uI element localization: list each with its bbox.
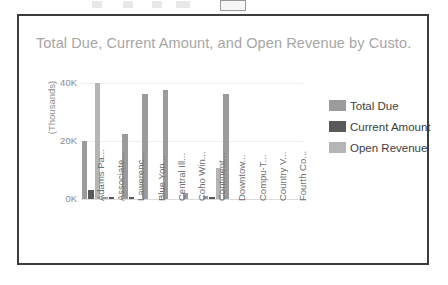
chart-frame[interactable]: Total Due, Current Amount, and Open Reve… bbox=[17, 14, 429, 265]
chart-title: Total Due, Current Amount, and Open Reve… bbox=[36, 35, 411, 51]
y-axis-tick-labels: 40K20K0K bbox=[47, 68, 77, 199]
toolbar-icon-2[interactable] bbox=[123, 1, 133, 8]
gridline bbox=[81, 141, 303, 142]
chart-legend: Total DueCurrent AmountOpen Revenue bbox=[329, 96, 439, 159]
x-tick-label: Coho Win... bbox=[196, 151, 207, 201]
x-tick-label: Adams Pa... bbox=[95, 149, 106, 201]
x-tick-label: Continent... bbox=[216, 152, 227, 201]
toolbar-strip bbox=[0, 0, 448, 12]
legend-swatch bbox=[329, 100, 346, 111]
y-tick-label: 20K bbox=[60, 135, 77, 146]
toolbar-icon-4[interactable] bbox=[176, 1, 190, 8]
legend-swatch bbox=[329, 142, 346, 153]
legend-swatch bbox=[329, 121, 346, 132]
legend-item[interactable]: Open Revenue bbox=[329, 138, 439, 157]
y-tick-label: 0K bbox=[65, 193, 77, 204]
x-tick-label: Compu-T... bbox=[257, 155, 268, 201]
legend-label: Current Amount bbox=[350, 121, 431, 133]
x-tick-label: Lawerenc... bbox=[135, 152, 146, 201]
x-tick-label: Associate... bbox=[115, 152, 126, 201]
x-tick-label: Country V... bbox=[277, 152, 288, 201]
toolbar-icon-1[interactable] bbox=[92, 1, 102, 8]
x-tick-label: Downtow... bbox=[236, 155, 247, 201]
chart-bar[interactable] bbox=[82, 141, 88, 199]
x-tick-label: Blue Yon... bbox=[156, 156, 167, 201]
x-axis-tick-labels: Adams Pa...Associate...Lawerenc...Blue Y… bbox=[81, 201, 303, 271]
y-tick-label: 40K bbox=[60, 77, 77, 88]
chart-bar[interactable] bbox=[88, 190, 94, 199]
toolbar-icon-3[interactable] bbox=[152, 1, 162, 8]
x-tick-label: Fourth Co... bbox=[297, 151, 308, 201]
legend-label: Open Revenue bbox=[350, 142, 427, 154]
gridline bbox=[81, 83, 303, 84]
toolbar-selected-button[interactable] bbox=[220, 0, 246, 11]
legend-item[interactable]: Current Amount bbox=[329, 117, 439, 136]
legend-item[interactable]: Total Due bbox=[329, 96, 439, 115]
x-tick-label: Central Ill... bbox=[176, 153, 187, 201]
legend-label: Total Due bbox=[350, 100, 399, 112]
